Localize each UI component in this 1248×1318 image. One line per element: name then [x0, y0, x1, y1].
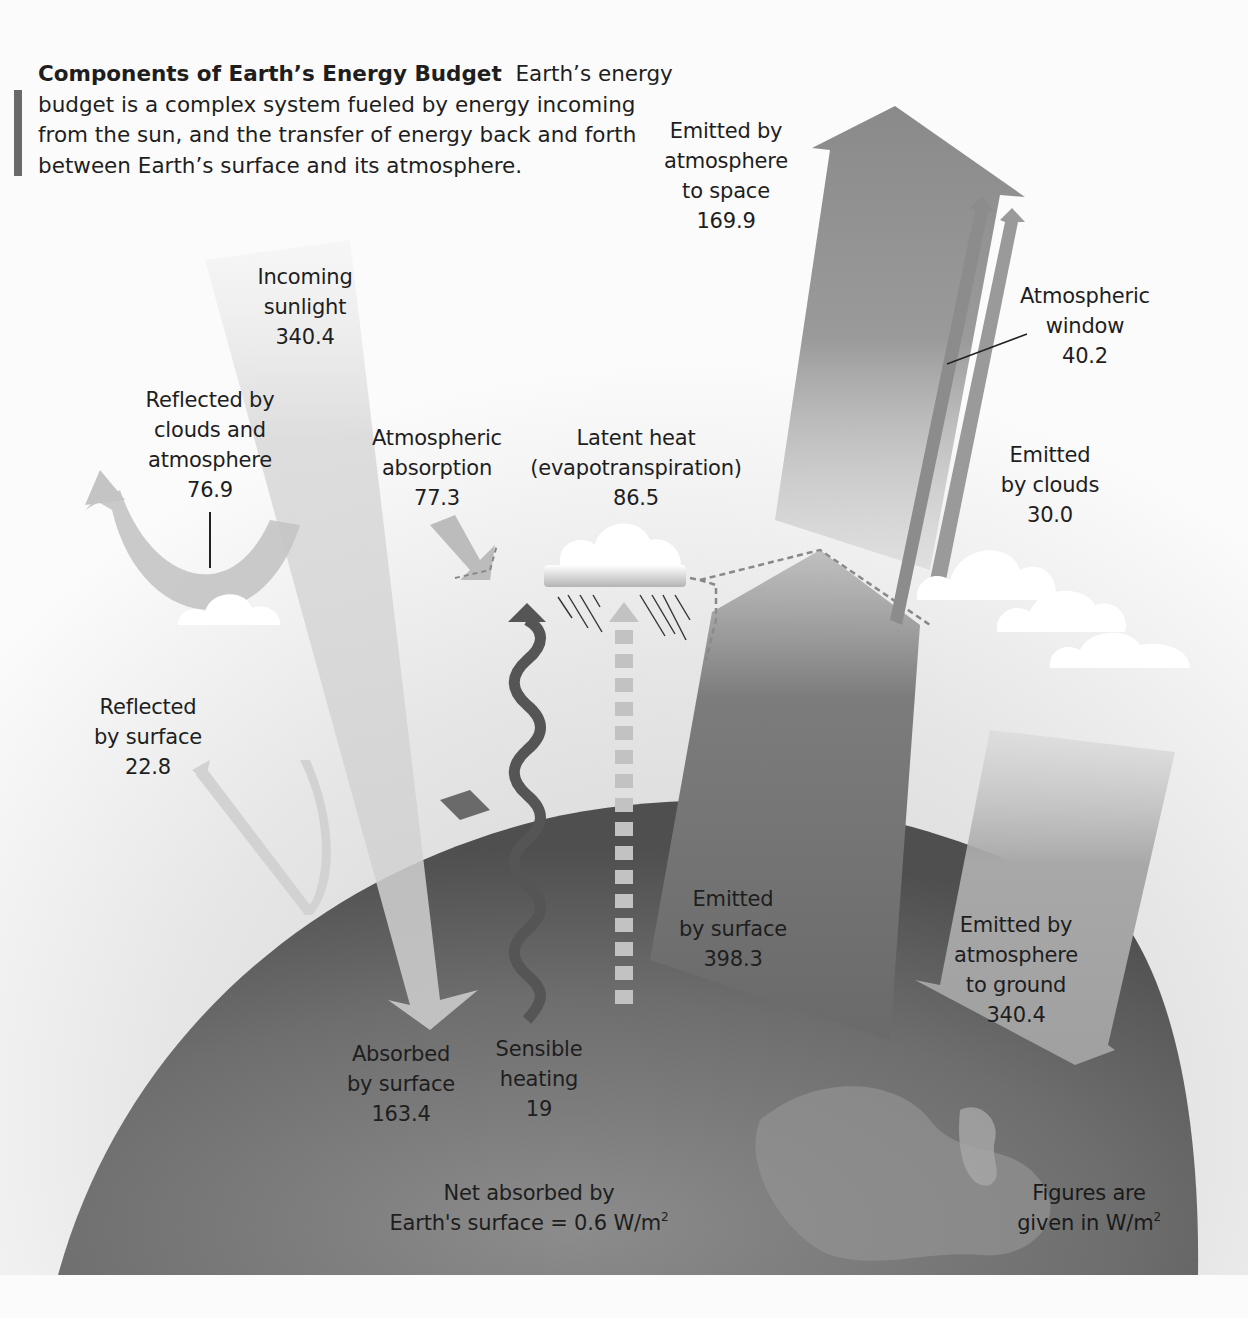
label-emitted-clouds: Emitted by clouds 30.0 [1001, 440, 1099, 530]
label-sensible-heating: Sensible heating 19 [496, 1034, 583, 1124]
value-incoming-sunlight: 340.4 [257, 322, 352, 352]
value-latent-heat: 86.5 [530, 483, 742, 513]
label-latent-heat: Latent heat (evapotranspiration) 86.5 [530, 423, 742, 513]
label-reflected-surface: Reflected by surface 22.8 [94, 692, 202, 782]
label-reflected-clouds: Reflected by clouds and atmosphere 76.9 [146, 385, 275, 505]
energy-budget-diagram: Components of Earth’s Energy Budget Eart… [0, 0, 1248, 1318]
value-reflected-clouds: 76.9 [146, 475, 275, 505]
value-sensible-heating: 19 [496, 1094, 583, 1124]
value-emitted-space: 169.9 [664, 206, 788, 236]
value-emitted-surface: 398.3 [679, 944, 787, 974]
label-emitted-surface: Emitted by surface 398.3 [679, 884, 787, 974]
label-emitted-ground: Emitted by atmosphere to ground 340.4 [954, 910, 1078, 1030]
diagram-graphics [0, 0, 1248, 1318]
value-emitted-ground: 340.4 [954, 1000, 1078, 1030]
figure-caption: Components of Earth’s Energy Budget Eart… [38, 59, 678, 181]
label-incoming-sunlight: Incoming sunlight 340.4 [257, 262, 352, 352]
value-emitted-clouds: 30.0 [1001, 500, 1099, 530]
label-emitted-space: Emitted by atmosphere to space 169.9 [664, 116, 788, 236]
label-net-absorbed: Net absorbed by Earth's surface = 0.6 W/… [389, 1178, 668, 1238]
value-atmospheric-absorption: 77.3 [372, 483, 502, 513]
label-atmospheric-absorption: Atmospheric absorption 77.3 [372, 423, 502, 513]
value-reflected-surface: 22.8 [94, 752, 202, 782]
label-absorbed-surface: Absorbed by surface 163.4 [347, 1039, 455, 1129]
caption-accent-bar [14, 90, 22, 176]
caption-title: Components of Earth’s Energy Budget [38, 61, 502, 86]
value-atmospheric-window: 40.2 [1020, 341, 1150, 371]
label-units-note: Figures are given in W/m2 [1017, 1178, 1161, 1238]
label-atmospheric-window: Atmospheric window 40.2 [1020, 281, 1150, 371]
value-absorbed-surface: 163.4 [347, 1099, 455, 1129]
